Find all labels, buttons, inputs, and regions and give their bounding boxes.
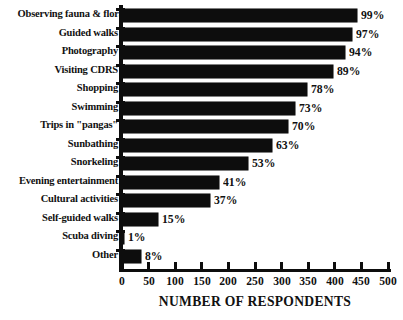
category-label: Shopping (18, 81, 118, 93)
bar-value-label: 97% (356, 28, 379, 41)
bar-value-label: 1% (128, 231, 146, 244)
category-label: Observing fauna & flora (18, 7, 118, 19)
y-axis-tick (116, 230, 125, 233)
bar-value-label: 37% (214, 194, 237, 207)
x-axis-title: NUMBER OF RESPONDENTS (122, 294, 388, 310)
x-axis-tick-label: 400 (326, 274, 343, 288)
x-axis-tick (174, 262, 177, 270)
y-axis-tick (116, 64, 125, 67)
category-label: Sunbathing (18, 137, 118, 149)
y-axis-tick (116, 119, 125, 122)
x-axis-tick (333, 262, 336, 270)
x-axis-tick-label: 250 (246, 274, 263, 288)
y-axis-tick (116, 27, 125, 30)
y-axis-tick (116, 45, 125, 48)
x-axis-tick (280, 262, 283, 270)
bar-value-label: 15% (162, 213, 185, 226)
category-label: Swimming (18, 100, 118, 112)
bar (122, 9, 357, 22)
x-axis-tick-label: 200 (220, 274, 237, 288)
bar-value-label: 41% (223, 176, 246, 189)
category-label: Cultural activities (18, 192, 118, 204)
category-label: Scuba diving (18, 229, 118, 241)
bar (122, 46, 345, 59)
category-label: Guided walks (18, 26, 118, 38)
category-label: Self-guided walks (18, 211, 118, 223)
y-axis-tick (116, 249, 125, 252)
bar-value-label: 63% (276, 139, 299, 152)
bar (122, 83, 307, 96)
bar (122, 157, 248, 170)
x-axis-tick-label: 0 (119, 274, 125, 288)
category-label: Photography (18, 44, 118, 56)
bar-value-label: 78% (311, 83, 334, 96)
x-axis-tick (147, 262, 150, 270)
y-axis-tick (116, 212, 125, 215)
category-label: Evening entertainment (18, 174, 118, 186)
bar-value-label: 99% (361, 9, 384, 22)
bar (122, 194, 210, 207)
bar-value-label: 94% (349, 46, 372, 59)
bar (122, 120, 288, 133)
x-axis-tick (387, 262, 390, 270)
category-label: Trips in "pangas" (18, 118, 118, 130)
y-axis-tick (116, 101, 125, 104)
category-label: Visiting CDRS (18, 63, 118, 75)
bar-value-label: 70% (292, 120, 315, 133)
x-axis-tick (307, 262, 310, 270)
x-axis-tick (200, 262, 203, 270)
category-label: Other (18, 248, 118, 260)
bar (122, 28, 352, 41)
y-axis-tick (116, 8, 125, 11)
bar (122, 213, 158, 226)
bar (122, 176, 219, 189)
y-axis-tick (116, 193, 125, 196)
x-axis-tick (121, 262, 124, 270)
bar-value-label: 73% (299, 102, 322, 115)
y-axis-tick (116, 175, 125, 178)
bar (122, 65, 333, 78)
horizontal-bar-chart: Observing fauna & flora Guided walks Pho… (0, 0, 403, 320)
bar (122, 139, 272, 152)
x-axis-tick-label: 150 (193, 274, 210, 288)
y-axis-tick (116, 138, 125, 141)
bar-value-label: 89% (337, 65, 360, 78)
plot-area: 99% 97% 94% 89% 78% 73% 70% 63% 53% 41% … (122, 6, 388, 270)
y-axis-tick (116, 82, 125, 85)
x-axis-tick-label: 350 (299, 274, 316, 288)
x-axis-tick (254, 262, 257, 270)
x-axis-tick-label: 450 (353, 274, 370, 288)
bar-value-label: 8% (145, 250, 163, 263)
y-axis-tick (116, 156, 125, 159)
x-axis-tick (227, 262, 230, 270)
x-axis-tick-label: 300 (273, 274, 290, 288)
x-axis-tick-label: 50 (143, 274, 155, 288)
x-axis-tick-label: 500 (379, 274, 396, 288)
category-label: Snorkeling (18, 155, 118, 167)
bar (122, 102, 295, 115)
bar-value-label: 53% (252, 157, 275, 170)
x-axis-tick (360, 262, 363, 270)
x-axis-tick-label: 100 (166, 274, 183, 288)
